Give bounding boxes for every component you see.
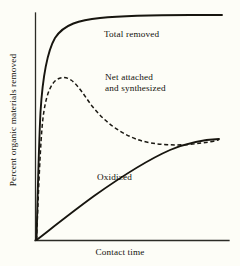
annotation-oxidized: Oxidized <box>97 172 132 183</box>
chart-plot-area <box>0 0 240 266</box>
annotation-net-attached-line1: Net attached <box>105 72 166 83</box>
curve-total-removed <box>37 15 223 240</box>
curve-oxidized <box>37 139 220 240</box>
x-axis-label: Contact time <box>0 247 240 258</box>
y-axis-label: Percent organic materials removed <box>8 54 18 187</box>
chart-figure: Total removed Net attached and synthesiz… <box>0 0 240 266</box>
annotation-net-attached-synthesized: Net attached and synthesized <box>105 72 166 95</box>
curve-net-attached-synthesized <box>37 77 220 240</box>
y-axis-label-container: Percent organic materials removed <box>0 0 26 240</box>
annotation-net-attached-line2: and synthesized <box>105 83 166 94</box>
annotation-total-removed: Total removed <box>104 29 159 40</box>
